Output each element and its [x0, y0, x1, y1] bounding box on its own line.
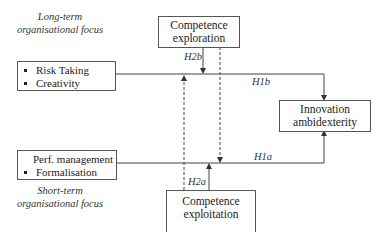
- exploitation-line2: exploitation: [184, 208, 239, 221]
- h1a-label: H1a: [254, 151, 272, 162]
- exploitation-line1: Competence: [182, 195, 239, 208]
- exploration-line1: Competence: [170, 19, 227, 32]
- outcome-line2: ambidexterity: [293, 116, 357, 129]
- innovation-ambidexterity-box: Innovation ambidexterity: [279, 100, 371, 132]
- h2b-label: H2b: [184, 51, 202, 62]
- h2a-label: H2a: [188, 176, 206, 187]
- h1b-label: H1b: [252, 76, 270, 87]
- competence-exploitation-box: Competence exploitation: [166, 190, 256, 232]
- exploration-line2: exploration: [173, 32, 225, 45]
- outcome-line1: Innovation: [300, 103, 350, 116]
- competence-exploration-box: Competence exploration: [158, 16, 240, 48]
